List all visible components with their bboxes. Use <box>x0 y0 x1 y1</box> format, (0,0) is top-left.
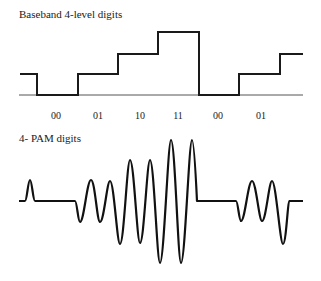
pam-signal <box>19 140 303 263</box>
pam-waveform <box>0 0 321 281</box>
